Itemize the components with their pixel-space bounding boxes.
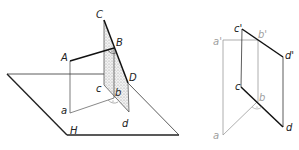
label-H: H [70, 125, 78, 136]
label-d-plan: d [286, 122, 293, 133]
label-A: A [60, 52, 68, 63]
left-3d-view: C B A D c b a d H [7, 9, 179, 136]
label-B: B [116, 37, 123, 48]
label-D: D [129, 72, 137, 83]
label-b-plan: b [259, 92, 265, 103]
label-c-plan: c [235, 81, 241, 92]
h-plane [7, 74, 179, 135]
label-b: b [115, 87, 121, 98]
label-d-prime: d' [285, 50, 294, 61]
projection-diagram: C B A D c b a d H a' c' b' d' c b a d [0, 0, 299, 150]
label-a: a [61, 105, 67, 116]
label-b-prime: b' [258, 29, 267, 40]
label-c-prime: c' [234, 23, 242, 34]
label-d: d [122, 118, 129, 129]
label-a-prime: a' [213, 36, 222, 47]
label-c: c [96, 83, 102, 94]
label-C: C [96, 9, 103, 20]
right-projection-view: a' c' b' d' c b a d [213, 23, 294, 141]
label-a-plan: a [213, 130, 219, 141]
